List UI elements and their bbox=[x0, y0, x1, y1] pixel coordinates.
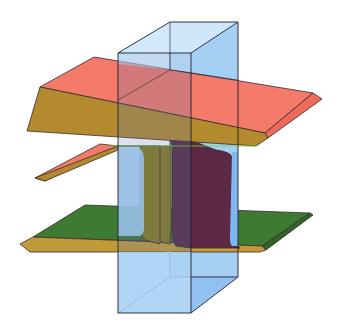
upper-left-wing bbox=[35, 144, 118, 181]
figure-canvas bbox=[0, 0, 337, 330]
ibeam-box-illustration bbox=[0, 0, 337, 330]
